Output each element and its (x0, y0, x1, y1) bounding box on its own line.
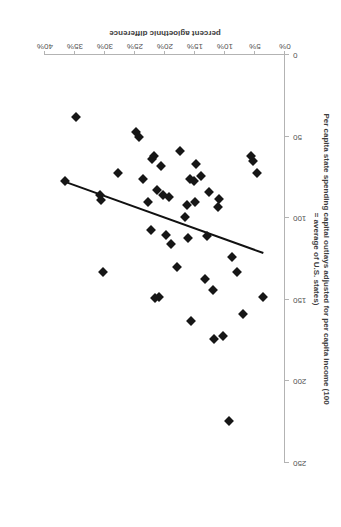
x-tick-label: 25% (127, 42, 143, 51)
y-tick-mark (285, 380, 289, 381)
y-tick-mark (285, 136, 289, 137)
x-tick-label: 20% (157, 42, 173, 51)
y-tick-mark (285, 54, 289, 55)
data-point (183, 233, 193, 243)
data-point (200, 274, 210, 284)
data-point (252, 168, 262, 178)
y-axis-title-line-1: Per capita state spending capital outlay… (321, 109, 331, 409)
data-point (238, 310, 248, 320)
data-point (146, 225, 156, 235)
data-point (138, 174, 148, 184)
plot-area (45, 55, 285, 463)
y-axis-title: Per capita state spending capital outlay… (311, 109, 331, 409)
data-point (258, 292, 268, 302)
data-point (191, 159, 201, 169)
data-point (166, 239, 176, 249)
data-point (224, 416, 234, 426)
data-point (161, 230, 171, 240)
data-point (175, 146, 185, 156)
data-point (218, 331, 228, 341)
data-point (204, 187, 214, 197)
scatter-chart: 0%5%10%15%20%25%30%35%40% 05010015020025… (0, 0, 341, 527)
data-point (232, 267, 242, 277)
data-point (227, 252, 237, 262)
data-point (156, 161, 166, 171)
x-tick-label: 15% (187, 42, 203, 51)
data-point (180, 212, 190, 222)
y-tick-mark (285, 217, 289, 218)
x-tick-label: 5% (249, 42, 261, 51)
y-tick-label: 250 (293, 459, 321, 468)
x-tick-label: 0% (279, 42, 291, 51)
x-axis-title: percent agioethnic difference (109, 28, 221, 38)
data-point (172, 262, 182, 272)
x-tick-label: 10% (217, 42, 233, 51)
data-point (186, 316, 196, 326)
data-point (113, 168, 123, 178)
y-tick-mark (285, 462, 289, 463)
x-tick-label: 40% (37, 42, 53, 51)
chart-rotation-wrapper: 0%5%10%15%20%25%30%35%40% 05010015020025… (0, 0, 341, 527)
y-axis-title-line-2: = average of U.S. states) (311, 109, 321, 409)
data-point (98, 267, 108, 277)
y-tick-mark (285, 299, 289, 300)
data-point (71, 112, 81, 122)
data-point (208, 285, 218, 295)
x-tick-label: 35% (67, 42, 83, 51)
y-tick-label: 0 (293, 51, 321, 60)
data-point (213, 202, 223, 212)
x-tick-label: 30% (97, 42, 113, 51)
data-point (143, 197, 153, 207)
